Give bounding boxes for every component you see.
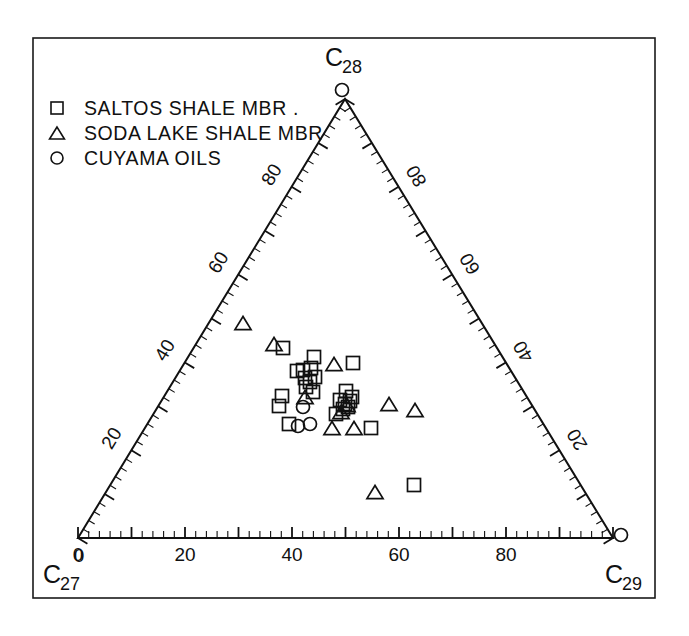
- left-axis-tick: [190, 354, 196, 358]
- apex-label-c27-letter: C: [43, 560, 61, 588]
- right-axis-tick: [496, 362, 505, 368]
- left-axis-tick: [137, 441, 143, 445]
- left-axis-tick: [110, 485, 116, 489]
- left-axis-tick: [254, 248, 260, 252]
- right-axis-tick: [548, 441, 554, 445]
- left-axis-tick: [169, 389, 175, 393]
- left-axis-tick: [302, 169, 308, 173]
- right-axis-tick: [377, 160, 383, 164]
- left-axis-tick: [147, 424, 153, 428]
- ternary-diagram-figure: 02040608020406080204060800 C28C27C29 SAL…: [0, 0, 689, 636]
- data-point-triangle: [324, 421, 340, 434]
- right-axis-tick: [564, 468, 570, 472]
- right-axis-tick: [559, 459, 565, 463]
- right-axis-tick: [403, 204, 409, 208]
- data-point-triangle: [367, 485, 383, 498]
- left-axis-tick: [281, 204, 287, 208]
- apex-label-c29-letter: C: [605, 560, 623, 588]
- right-axis-tick: [494, 354, 500, 358]
- left-axis-tick: [233, 283, 239, 287]
- right-axis-tick: [425, 239, 431, 243]
- data-point-triangle: [235, 316, 251, 329]
- left-axis-tick: [244, 266, 250, 270]
- left-axis-tick: [308, 160, 314, 164]
- right-axis-tick: [478, 327, 484, 331]
- left-axis-tick: [142, 433, 148, 437]
- right-axis-tick: [532, 415, 538, 419]
- right-axis-tick: [543, 433, 549, 437]
- legend: SALTOS SHALE MBR .SODA LAKE SHALE MBRCUY…: [50, 97, 323, 169]
- apex-label-c29-subscript: 29: [622, 574, 642, 594]
- left-axis-tick: [179, 371, 185, 375]
- left-axis-tick: [238, 275, 247, 281]
- data-point-square: [273, 400, 286, 413]
- right-axis-tick: [389, 187, 398, 193]
- data-point-triangle: [381, 397, 397, 410]
- right-axis-tick: [452, 283, 458, 287]
- left-axis-tick: [99, 503, 105, 507]
- axis-tick-labels: 02040608020406080204060800: [73, 160, 592, 566]
- data-point-circle: [304, 418, 317, 431]
- data-point-circle: [336, 84, 349, 97]
- right-axis-tick: [511, 380, 517, 384]
- data-point-circle: [297, 401, 310, 414]
- legend-label: CUYAMA OILS: [84, 147, 221, 169]
- left-axis-tick: [334, 117, 340, 121]
- legend-entry-triangle: SODA LAKE SHALE MBR: [50, 122, 323, 144]
- data-point-triangle: [266, 337, 282, 350]
- legend-square-icon: [51, 102, 63, 114]
- left-axis-tick: [94, 512, 100, 516]
- data-point-square: [347, 357, 360, 370]
- right-axis-tick: [398, 196, 404, 200]
- right-axis-tick: [484, 336, 490, 340]
- left-axis-tick: [206, 327, 212, 331]
- right-axis-tick: [550, 450, 559, 456]
- legend-circle-icon: [51, 152, 63, 164]
- right-axis-tick: [462, 301, 468, 305]
- data-point-square: [283, 418, 296, 431]
- legend-label: SALTOS SHALE MBR .: [84, 97, 299, 119]
- data-point-circle: [292, 420, 305, 433]
- left-axis-tick: [89, 520, 95, 524]
- left-axis-tick: [286, 196, 292, 200]
- right-axis-tick: [350, 117, 356, 121]
- left-axis-tick: [153, 415, 159, 419]
- apex-label-c28-subscript: 28: [342, 57, 362, 77]
- legend-triangle-icon: [50, 127, 65, 139]
- right-axis-tick: [360, 134, 366, 138]
- left-axis-tick: [105, 494, 114, 500]
- left-axis-tick-label: 20: [97, 424, 126, 453]
- right-axis-tick: [577, 494, 586, 500]
- legend-entry-square: SALTOS SHALE MBR .: [51, 97, 299, 119]
- left-axis-tick: [185, 362, 194, 368]
- right-axis-tick: [371, 152, 377, 156]
- left-axis-tick: [265, 231, 274, 237]
- right-axis-tick: [430, 248, 436, 252]
- right-axis-tick: [489, 345, 495, 349]
- right-axis-tick: [387, 178, 393, 182]
- left-axis-tick: [126, 459, 132, 463]
- right-axis-tick: [596, 520, 602, 524]
- right-axis-tick: [355, 125, 361, 129]
- left-axis-tick: [292, 187, 301, 193]
- bottom-tick-label: 60: [388, 544, 409, 565]
- legend-entry-circle: CUYAMA OILS: [51, 147, 221, 169]
- left-axis-tick: [201, 336, 207, 340]
- right-axis-tick: [523, 406, 532, 412]
- apex-label-c27-subscript: 27: [60, 574, 80, 594]
- right-axis-tick-label: 60: [455, 249, 484, 278]
- left-axis-tick: [174, 380, 180, 384]
- bottom-tick-label: 20: [174, 544, 195, 565]
- left-axis-tick: [249, 257, 255, 261]
- left-axis-tick: [324, 134, 330, 138]
- left-axis-tick: [270, 222, 276, 226]
- bottom-tick-label: 80: [495, 544, 516, 565]
- right-axis-tick-label: 40: [509, 337, 538, 366]
- apex-label-c29: C29: [605, 560, 642, 594]
- left-axis-tick: [228, 292, 234, 296]
- right-axis-tick: [468, 310, 474, 314]
- data-point-square: [365, 422, 378, 435]
- data-points: [235, 84, 628, 542]
- right-axis-tick: [344, 108, 350, 112]
- right-axis-tick: [470, 319, 479, 325]
